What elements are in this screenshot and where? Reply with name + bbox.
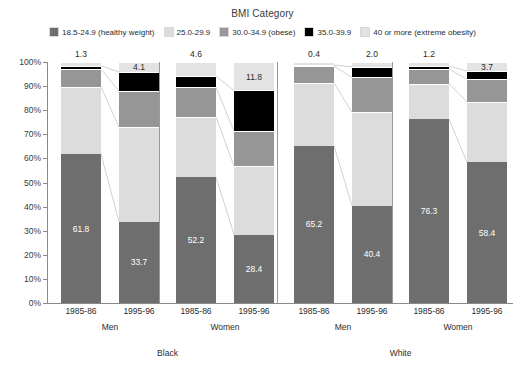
stacked-bar[interactable]: 58.43.7 <box>467 62 507 303</box>
bar-segment[interactable] <box>61 62 101 66</box>
y-axis-tick-label: 30% <box>24 226 41 236</box>
bar-segment[interactable]: 76.3 <box>409 119 449 303</box>
legend-swatch-icon <box>360 27 370 37</box>
legend-item: 25.0-29.9 <box>164 27 211 37</box>
bar-segment[interactable] <box>176 62 216 76</box>
group-separator <box>277 62 278 303</box>
stacked-bar[interactable]: 28.411.8 <box>234 62 274 303</box>
stacked-bar[interactable]: 40.4 <box>352 62 392 303</box>
segment-value-label: 3.7 <box>467 63 507 72</box>
bar-segment[interactable] <box>352 77 392 112</box>
bar-segment[interactable]: 40.4 <box>352 206 392 303</box>
segment-value-label: 11.8 <box>234 73 274 82</box>
segment-leader-line <box>101 154 119 222</box>
bar-segment[interactable] <box>234 166 274 234</box>
bar-segment[interactable] <box>119 127 159 221</box>
legend-swatch-icon <box>219 27 229 37</box>
y-axis-tick <box>43 134 47 135</box>
segment-value-label: 28.4 <box>234 265 274 274</box>
legend-item-label: 35.0-39.9 <box>317 28 351 37</box>
bar-segment[interactable] <box>409 66 449 69</box>
bar-segment[interactable]: 58.4 <box>467 162 507 303</box>
bar-segment[interactable]: 52.2 <box>176 177 216 303</box>
callout-value-label: 1.2 <box>409 49 449 59</box>
segment-leader-line <box>101 69 119 91</box>
x-axis-period-labels: 1985-861995-961985-861995-961985-861995-… <box>47 306 513 320</box>
bar-segment[interactable]: 3.7 <box>467 62 507 71</box>
y-axis-tick-label: 20% <box>24 250 41 260</box>
x-axis-race-label: White <box>341 348 461 358</box>
bar-segment[interactable] <box>294 62 334 65</box>
legend-swatch-icon <box>164 27 174 37</box>
legend-item-label: 40 or more (extreme obesity) <box>373 28 476 37</box>
stacked-bar[interactable]: 65.2 <box>294 62 334 303</box>
bar-segment[interactable] <box>409 62 449 66</box>
stacked-bar[interactable]: 33.74.1 <box>119 62 159 303</box>
bar-segment[interactable] <box>352 62 392 67</box>
segment-value-label: 65.2 <box>294 220 334 229</box>
bar-segment[interactable] <box>61 87 101 154</box>
y-axis-tick-label: 70% <box>24 129 41 139</box>
x-axis-race-labels: BlackWhite <box>47 348 513 362</box>
bar-segment[interactable] <box>119 91 159 127</box>
bar-segment[interactable] <box>294 65 334 66</box>
y-axis-tick-label: 60% <box>24 153 41 163</box>
segment-value-label: 61.8 <box>61 224 101 233</box>
bar-segment[interactable] <box>176 76 216 87</box>
x-axis-sex-label: Women <box>180 322 270 332</box>
bar-segment[interactable] <box>467 79 507 102</box>
bar-segment[interactable]: 61.8 <box>61 154 101 303</box>
bar-segment[interactable] <box>352 112 392 205</box>
y-axis-tick-label: 10% <box>24 274 41 284</box>
group-separator <box>392 62 393 303</box>
segment-leader-line <box>334 65 352 67</box>
stacked-bar[interactable]: 52.2 <box>176 62 216 303</box>
x-axis-race-label: Black <box>108 348 228 358</box>
bar-segment[interactable] <box>176 117 216 177</box>
bar-segment[interactable] <box>61 66 101 69</box>
bar-segment[interactable] <box>294 66 334 83</box>
bar-segment[interactable] <box>467 102 507 162</box>
segment-value-label: 4.1 <box>119 63 159 72</box>
legend-item-label: 18.5-24.9 (healthy weight) <box>62 28 155 37</box>
y-axis-tick <box>43 207 47 208</box>
bar-segment[interactable]: 4.1 <box>119 62 159 72</box>
segment-leader-line <box>334 66 352 77</box>
bar-segment[interactable] <box>119 72 159 91</box>
segment-leader-line <box>334 146 352 206</box>
bar-segment[interactable] <box>61 69 101 87</box>
bar-segment[interactable]: 65.2 <box>294 146 334 303</box>
bar-segment[interactable] <box>176 87 216 117</box>
stacked-bar[interactable]: 76.3 <box>409 62 449 303</box>
bmi-category-chart: BMI Category 18.5-24.9 (healthy weight)2… <box>0 0 525 376</box>
bar-segment[interactable] <box>294 83 334 146</box>
chart-title: BMI Category <box>0 8 525 19</box>
y-axis-tick-label: 90% <box>24 81 41 91</box>
x-axis-period-label: 1995-96 <box>452 306 522 316</box>
y-axis-tick-label: 50% <box>24 178 41 188</box>
y-axis-tick <box>43 158 47 159</box>
bar-segment[interactable] <box>234 131 274 166</box>
legend-item: 35.0-39.9 <box>304 27 351 37</box>
plot-area: 0%10%20%30%40%50%60%70%80%90%100%61.833.… <box>47 62 513 303</box>
legend-swatch-icon <box>49 27 59 37</box>
y-axis-tick-label: 80% <box>24 105 41 115</box>
segment-value-label: 76.3 <box>409 207 449 216</box>
bar-segment[interactable]: 28.4 <box>234 235 274 303</box>
bar-segment[interactable] <box>234 90 274 131</box>
legend-item-label: 30.0-34.9 (obese) <box>232 28 295 37</box>
group-separator <box>159 62 160 303</box>
bar-segment[interactable] <box>467 71 507 79</box>
stacked-bar[interactable]: 61.8 <box>61 62 101 303</box>
y-axis-tick-label: 40% <box>24 202 41 212</box>
bar-segment[interactable]: 33.7 <box>119 222 159 303</box>
y-axis-tick <box>43 110 47 111</box>
bar-segment[interactable]: 11.8 <box>234 62 274 90</box>
segment-leader-line <box>216 177 234 234</box>
bar-segment[interactable] <box>352 67 392 78</box>
segment-value-label: 52.2 <box>176 236 216 245</box>
y-axis-tick <box>43 62 47 63</box>
bar-segment[interactable] <box>409 84 449 119</box>
bar-segment[interactable] <box>409 69 449 84</box>
callout-value-label: 1.3 <box>61 49 101 59</box>
